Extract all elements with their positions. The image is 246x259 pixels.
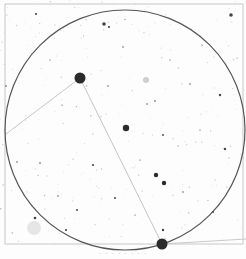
noise-speck xyxy=(63,123,64,124)
noise-speck xyxy=(64,218,65,219)
noise-speck xyxy=(226,41,227,42)
noise-speck xyxy=(160,47,161,48)
noise-speck xyxy=(1,23,2,24)
noise-speck xyxy=(101,198,102,199)
noise-speck xyxy=(140,72,141,73)
noise-speck xyxy=(223,148,224,149)
noise-speck xyxy=(245,3,246,4)
noise-speck xyxy=(60,233,61,234)
noise-speck xyxy=(54,24,55,25)
star xyxy=(201,44,202,45)
noise-speck xyxy=(241,227,242,228)
noise-speck xyxy=(18,241,19,242)
star xyxy=(39,162,41,164)
noise-speck xyxy=(214,179,215,180)
noise-speck xyxy=(233,59,234,60)
noise-speck xyxy=(131,167,132,168)
noise-speck xyxy=(108,93,109,94)
noise-speck xyxy=(28,143,29,144)
noise-speck xyxy=(147,6,148,7)
noise-speck xyxy=(0,118,1,119)
noise-speck xyxy=(204,240,205,241)
noise-speck xyxy=(235,1,236,2)
noise-speck xyxy=(12,69,13,70)
noise-speck xyxy=(181,171,182,172)
noise-speck xyxy=(90,178,92,180)
noise-speck xyxy=(215,53,216,54)
noise-speck xyxy=(216,185,217,186)
star xyxy=(212,211,214,213)
noise-speck xyxy=(177,227,178,228)
noise-speck xyxy=(90,115,92,117)
star xyxy=(189,83,190,84)
noise-speck xyxy=(62,110,63,111)
noise-speck xyxy=(63,171,64,172)
noise-speck xyxy=(212,109,213,110)
noise-speck xyxy=(164,238,165,239)
star xyxy=(122,46,123,47)
noise-speck xyxy=(0,78,1,79)
noise-speck xyxy=(188,212,190,214)
noise-speck xyxy=(56,56,57,57)
noise-speck xyxy=(20,204,21,205)
noise-speck xyxy=(172,195,174,197)
noise-speck xyxy=(84,143,85,144)
noise-speck xyxy=(96,169,97,170)
noise-speck xyxy=(85,19,87,21)
noise-speck xyxy=(72,197,73,198)
noise-speck xyxy=(2,4,3,5)
noise-speck xyxy=(198,200,199,201)
noise-speck xyxy=(122,104,123,105)
noise-speck xyxy=(161,128,162,129)
noise-speck xyxy=(138,28,139,29)
noise-speck xyxy=(39,32,40,33)
noise-speck xyxy=(151,118,152,119)
noise-speck xyxy=(61,60,62,61)
star xyxy=(219,94,221,96)
noise-speck xyxy=(21,100,22,101)
noise-speck xyxy=(3,32,4,33)
noise-speck xyxy=(207,62,208,63)
noise-speck xyxy=(44,195,46,197)
noise-speck xyxy=(2,41,3,42)
noise-speck xyxy=(230,146,231,147)
noise-speck xyxy=(2,144,3,145)
noise-speck xyxy=(74,7,75,8)
noise-speck xyxy=(139,151,140,152)
star xyxy=(157,239,168,250)
noise-speck xyxy=(138,174,139,175)
noise-speck xyxy=(195,142,196,143)
noise-speck xyxy=(216,20,217,21)
noise-speck xyxy=(120,56,121,57)
noise-speck xyxy=(39,23,40,24)
noise-speck xyxy=(228,8,229,9)
noise-speck xyxy=(218,199,219,200)
star xyxy=(92,164,94,166)
noise-speck xyxy=(155,22,156,23)
noise-speck xyxy=(27,45,28,46)
noise-speck xyxy=(58,184,59,185)
star xyxy=(5,85,7,87)
star xyxy=(169,59,170,60)
noise-speck xyxy=(76,152,77,153)
noise-speck xyxy=(133,62,134,63)
noise-speck xyxy=(109,237,110,238)
noise-speck xyxy=(195,222,196,223)
noise-speck xyxy=(211,185,212,186)
noise-speck xyxy=(70,26,71,27)
noise-speck xyxy=(237,219,238,220)
noise-speck xyxy=(131,24,132,25)
noise-speck xyxy=(97,208,98,209)
noise-speck xyxy=(125,245,126,246)
noise-speck xyxy=(232,94,234,96)
noise-speck xyxy=(84,61,85,62)
noise-speck xyxy=(172,138,173,139)
star xyxy=(199,129,200,130)
noise-speck xyxy=(61,77,63,79)
noise-speck xyxy=(118,16,119,17)
noise-speck xyxy=(128,141,129,142)
noise-speck xyxy=(226,186,228,188)
noise-speck xyxy=(103,29,105,31)
noise-speck xyxy=(204,209,205,210)
noise-speck xyxy=(37,175,38,176)
